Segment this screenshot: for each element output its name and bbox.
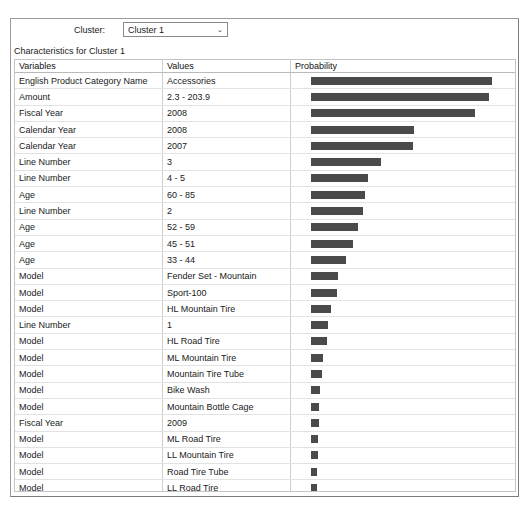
probability-bar-track [291, 350, 515, 365]
probability-bar-track [291, 106, 515, 121]
table-row[interactable]: ModelMountain Bottle Cage [15, 399, 515, 415]
cell-value: 1 [163, 317, 291, 332]
probability-bar [311, 370, 322, 378]
table-row[interactable]: Amount2.3 - 203.9 [15, 89, 515, 105]
probability-bar [311, 223, 358, 231]
table-row[interactable]: Fiscal Year2008 [15, 106, 515, 122]
probability-bar-track [291, 383, 515, 398]
cell-value: 3 [163, 154, 291, 169]
column-header-variables[interactable]: Variables [15, 60, 163, 72]
cell-value: Accessories [163, 73, 291, 88]
cell-probability [291, 203, 515, 218]
cell-variable: Fiscal Year [15, 415, 163, 430]
table-row[interactable]: ModelFender Set - Mountain [15, 269, 515, 285]
table-row[interactable]: Calendar Year2007 [15, 138, 515, 154]
chevron-down-icon: ⌄ [213, 23, 227, 36]
cell-value: Fender Set - Mountain [163, 269, 291, 284]
cell-probability [291, 383, 515, 398]
table-row[interactable]: ModelHL Mountain Tire [15, 301, 515, 317]
table-row[interactable]: ModelLL Road Tire [15, 480, 515, 492]
probability-bar-track [291, 138, 515, 153]
cell-variable: Model [15, 464, 163, 479]
probability-bar [311, 451, 318, 459]
cell-variable: Model [15, 448, 163, 463]
probability-bar-track [291, 269, 515, 284]
probability-bar-track [291, 366, 515, 381]
probability-bar-track [291, 203, 515, 218]
probability-bar-track [291, 187, 515, 202]
table-row[interactable]: ModelRoad Tire Tube [15, 464, 515, 480]
cell-probability [291, 171, 515, 186]
table-row[interactable]: Fiscal Year2009 [15, 415, 515, 431]
probability-bar [311, 256, 346, 264]
cell-variable: Model [15, 334, 163, 349]
cell-probability [291, 89, 515, 104]
cell-value: 33 - 44 [163, 252, 291, 267]
cell-variable: Model [15, 269, 163, 284]
probability-bar-track [291, 122, 515, 137]
table-row[interactable]: ModelHL Road Tire [15, 334, 515, 350]
cell-value: 52 - 59 [163, 220, 291, 235]
cluster-characteristics-panel: Cluster: Cluster 1 ⌄ Characteristics for… [10, 18, 519, 497]
cell-probability [291, 480, 515, 492]
cell-value: ML Mountain Tire [163, 350, 291, 365]
probability-bar [311, 386, 320, 394]
table-row[interactable]: ModelSport-100 [15, 285, 515, 301]
table-row[interactable]: ModelML Road Tire [15, 432, 515, 448]
table-row[interactable]: ModelML Mountain Tire [15, 350, 515, 366]
table-row[interactable]: Line Number1 [15, 317, 515, 333]
cell-variable: Line Number [15, 317, 163, 332]
table-row[interactable]: Line Number3 [15, 154, 515, 170]
probability-bar-track [291, 480, 515, 492]
cell-variable: Line Number [15, 154, 163, 169]
cell-value: Sport-100 [163, 285, 291, 300]
grid-caption: Characteristics for Cluster 1 [14, 46, 125, 56]
cell-probability [291, 154, 515, 169]
cell-value: 2.3 - 203.9 [163, 89, 291, 104]
characteristics-grid: Variables Values Probability English Pro… [14, 59, 516, 492]
table-row[interactable]: English Product Category NameAccessories [15, 73, 515, 89]
probability-bar [311, 305, 331, 313]
table-row[interactable]: Age60 - 85 [15, 187, 515, 203]
probability-bar-track [291, 448, 515, 463]
cell-variable: Calendar Year [15, 122, 163, 137]
cell-variable: Age [15, 252, 163, 267]
cell-probability [291, 317, 515, 332]
cell-value: Bike Wash [163, 383, 291, 398]
cell-variable: Age [15, 220, 163, 235]
cell-probability [291, 350, 515, 365]
cell-variable: Model [15, 285, 163, 300]
probability-bar [311, 77, 492, 85]
cell-value: Mountain Tire Tube [163, 366, 291, 381]
table-row[interactable]: Calendar Year2008 [15, 122, 515, 138]
cell-variable: Fiscal Year [15, 106, 163, 121]
cell-probability [291, 464, 515, 479]
probability-bar [311, 321, 328, 329]
probability-bar-track [291, 154, 515, 169]
cell-probability [291, 122, 515, 137]
table-row[interactable]: ModelBike Wash [15, 383, 515, 399]
cell-probability [291, 269, 515, 284]
probability-bar [311, 93, 489, 101]
table-row[interactable]: Line Number2 [15, 203, 515, 219]
table-row[interactable]: ModelLL Mountain Tire [15, 448, 515, 464]
cell-probability [291, 415, 515, 430]
probability-bar [311, 484, 317, 492]
table-row[interactable]: Age45 - 51 [15, 236, 515, 252]
probability-bar-track [291, 220, 515, 235]
cluster-dropdown[interactable]: Cluster 1 ⌄ [123, 22, 228, 37]
table-row[interactable]: ModelMountain Tire Tube [15, 366, 515, 382]
cell-variable: Model [15, 432, 163, 447]
probability-bar-track [291, 73, 515, 88]
grid-header-row: Variables Values Probability [15, 60, 515, 73]
table-row[interactable]: Age33 - 44 [15, 252, 515, 268]
probability-bar [311, 109, 475, 117]
probability-bar [311, 142, 413, 150]
probability-bar-track [291, 236, 515, 251]
table-row[interactable]: Age52 - 59 [15, 220, 515, 236]
cluster-dropdown-value: Cluster 1 [124, 25, 213, 35]
column-header-values[interactable]: Values [163, 60, 291, 72]
table-row[interactable]: Line Number4 - 5 [15, 171, 515, 187]
probability-bar [311, 191, 365, 199]
column-header-probability[interactable]: Probability [291, 60, 515, 72]
